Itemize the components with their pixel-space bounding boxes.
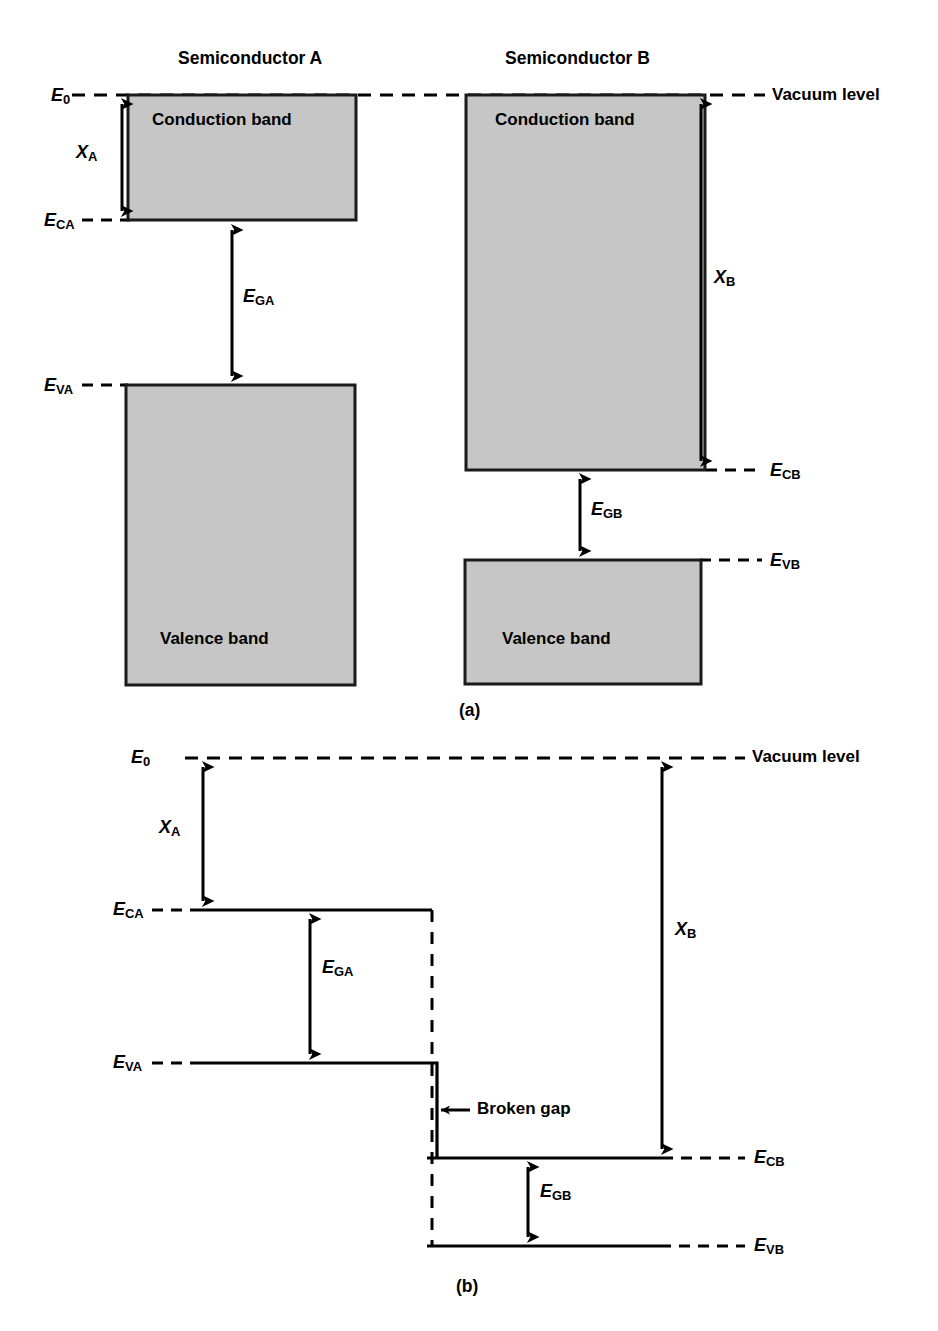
broken-gap-label: Broken gap [477, 1100, 571, 1117]
level-label-evb-b: EVB [754, 1236, 784, 1254]
chi-a-label-b: XA [159, 818, 180, 836]
egb-label-b: EGB [540, 1182, 571, 1200]
panel-b-graphics [0, 0, 938, 1331]
vacuum-level-label-b: Vacuum level [752, 748, 860, 765]
level-label-e0-b: E0 [131, 748, 150, 766]
level-label-eca-b: ECA [113, 900, 144, 918]
eva-level-line-b [200, 1063, 437, 1158]
ega-label-b: EGA [322, 958, 353, 976]
figure-canvas: Semiconductor A Semiconductor B Vacuum l… [0, 0, 938, 1331]
chi-b-label-b: XB [675, 920, 696, 938]
level-label-eva-b: EVA [113, 1053, 142, 1071]
panel-caption-b: (b) [456, 1276, 478, 1297]
level-label-ecb-b: ECB [754, 1148, 785, 1166]
